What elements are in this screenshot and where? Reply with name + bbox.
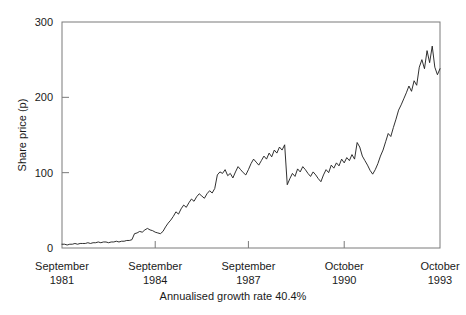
y-axis-tick-label: 100 [35, 167, 53, 179]
x-axis-tick-label-year: 1990 [332, 274, 356, 286]
share-price-line-chart: 0100200300 September1981September1984Sep… [0, 0, 466, 315]
y-axis-tick-label: 300 [35, 16, 53, 28]
x-axis-tick-label-year: 1981 [50, 274, 74, 286]
x-axis-tick-label-month: October [325, 260, 364, 272]
x-axis-tick-label-month: September [128, 260, 182, 272]
y-axis-title: Share price (p) [16, 99, 28, 172]
x-axis-tick-label-year: 1993 [428, 274, 452, 286]
x-axis-tick-label-year: 1987 [236, 274, 260, 286]
x-axis-tick-label-month: October [420, 260, 459, 272]
chart-figure: 0100200300 September1981September1984Sep… [0, 0, 466, 315]
y-axis-tick-label: 0 [47, 242, 53, 254]
y-axis-tick-label: 200 [35, 91, 53, 103]
chart-caption: Annualised growth rate 40.4% [160, 290, 307, 302]
x-axis-tick-label-year: 1984 [143, 274, 167, 286]
x-axis-tick-label-month: September [222, 260, 276, 272]
x-axis-tick-label-month: September [35, 260, 89, 272]
